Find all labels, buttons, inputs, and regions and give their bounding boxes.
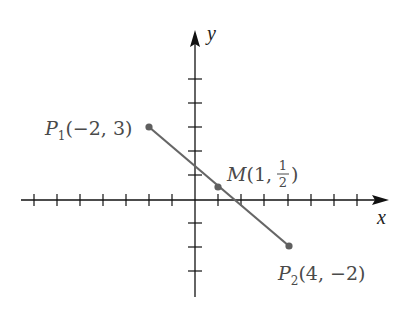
y-axis-label: y: [205, 22, 216, 45]
coordinate-plane: x y P1(−2, 3) M(1, 1 2: [0, 0, 407, 315]
point-p1: [145, 123, 152, 130]
label-p1: P1(−2, 3): [44, 117, 132, 143]
m-fraction-numerator: 1: [279, 158, 287, 173]
p1-coords: (−2, 3): [65, 117, 132, 139]
y-axis: y: [188, 22, 216, 297]
m-close-paren: ): [291, 163, 298, 185]
svg-text:M(1,: M(1,: [226, 163, 272, 185]
p2-coords: (4, −2): [298, 262, 365, 284]
point-m: [214, 183, 221, 190]
label-m: M(1, 1 2 ): [226, 158, 298, 190]
x-axis: x: [21, 194, 389, 228]
point-p2: [285, 242, 292, 249]
midpoint-diagram: x y P1(−2, 3) M(1, 1 2: [0, 0, 407, 315]
svg-text:P1(−2, 3): P1(−2, 3): [44, 117, 132, 143]
m-letter: M: [226, 163, 247, 185]
x-axis-label: x: [376, 206, 386, 228]
m-coords-open: (1,: [246, 163, 272, 185]
p1-subscript: 1: [58, 129, 66, 143]
p2-subscript: 2: [291, 274, 299, 288]
m-fraction-denominator: 2: [279, 175, 287, 190]
p1-letter: P: [44, 117, 59, 139]
label-p2: P2(4, −2): [277, 262, 365, 288]
p2-letter: P: [277, 262, 292, 284]
svg-text:P2(4, −2): P2(4, −2): [277, 262, 365, 288]
